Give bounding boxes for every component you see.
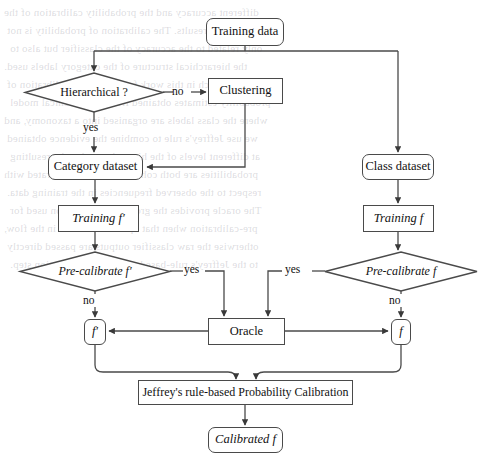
node-hierarchical[interactable]: Hierarchical ? xyxy=(25,73,163,112)
node-category-dataset-label: Category dataset xyxy=(54,160,138,173)
node-clustering-label: Clustering xyxy=(219,84,271,97)
node-calibrated-f-label: Calibrated f xyxy=(215,433,276,446)
node-oracle-label: Oracle xyxy=(230,325,263,338)
node-training-data-label: Training data xyxy=(212,25,279,38)
node-precalibrate-f[interactable]: Pre-calibrate f xyxy=(325,252,477,291)
node-class-dataset[interactable]: Class dataset xyxy=(362,154,434,180)
node-precalibrate-f-label: Pre-calibrate f xyxy=(366,264,437,279)
edge-label-yes-right: yes xyxy=(285,263,300,275)
edge-label-no-right: no xyxy=(389,294,401,306)
node-training-fprime-label: Training f′ xyxy=(72,212,124,225)
node-training-data[interactable]: Training data xyxy=(206,18,284,46)
node-precalibrate-fprime[interactable]: Pre-calibrate f′ xyxy=(20,252,170,291)
edge-label-no-hierarchical: no xyxy=(172,85,184,97)
edge-label-yes-hierarchical: yes xyxy=(83,121,98,133)
node-calibrated-f[interactable]: Calibrated f xyxy=(208,427,283,453)
node-fprime[interactable]: f′ xyxy=(84,319,106,345)
node-precalibrate-fprime-label: Pre-calibrate f′ xyxy=(58,264,131,279)
node-class-dataset-label: Class dataset xyxy=(366,160,431,173)
node-hierarchical-label: Hierarchical ? xyxy=(60,85,128,100)
node-training-f[interactable]: Training f xyxy=(363,205,434,232)
node-training-fprime[interactable]: Training f′ xyxy=(58,205,139,232)
node-f[interactable]: f xyxy=(391,319,411,345)
node-jeffreys-calibration-label: Jeffrey's rule-based Probability Calibra… xyxy=(142,386,348,399)
node-f-label: f xyxy=(399,325,402,338)
node-training-f-label: Training f xyxy=(374,212,424,225)
diagram-canvas: different accuracy and the probability c… xyxy=(0,0,488,467)
node-oracle[interactable]: Oracle xyxy=(208,318,285,345)
edge-label-yes-left: yes xyxy=(184,263,199,275)
node-category-dataset[interactable]: Category dataset xyxy=(48,154,143,180)
node-clustering[interactable]: Clustering xyxy=(208,78,283,104)
node-jeffreys-calibration[interactable]: Jeffrey's rule-based Probability Calibra… xyxy=(138,380,353,405)
node-fprime-label: f′ xyxy=(92,325,98,338)
edge-label-no-left: no xyxy=(83,294,95,306)
